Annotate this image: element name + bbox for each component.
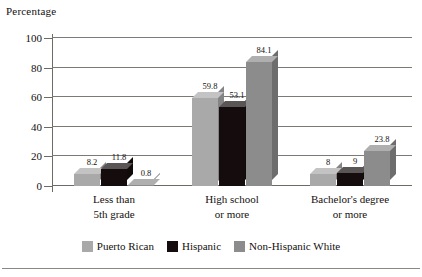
bottom-divider xyxy=(2,268,420,269)
legend-item[interactable]: Non-Hispanic White xyxy=(234,240,340,252)
y-tick-40 xyxy=(44,127,53,128)
bar-side-face xyxy=(127,157,133,180)
bar-group xyxy=(192,38,272,186)
legend-swatch-icon xyxy=(82,241,93,252)
bar-front-face xyxy=(128,185,154,186)
bar-front-face xyxy=(364,151,390,186)
bar[interactable] xyxy=(337,173,363,186)
bar-top-face xyxy=(192,92,224,98)
chart-legend: Puerto RicanHispanicNon-Hispanic White xyxy=(0,240,422,252)
y-axis-title: Percentage xyxy=(6,5,56,17)
y-tick-60 xyxy=(44,97,53,98)
category-label-line: or more xyxy=(205,207,258,222)
bar-group xyxy=(74,38,154,186)
y-tick-80 xyxy=(44,68,53,69)
bar-front-face xyxy=(310,174,336,186)
bar-side-face xyxy=(272,50,278,180)
y-axis-tick-labels: 020406080100 xyxy=(8,38,42,186)
legend-swatch-icon xyxy=(167,241,178,252)
legend-item[interactable]: Hispanic xyxy=(167,240,221,252)
bar-top-face xyxy=(128,179,160,185)
bar-front-face xyxy=(337,173,363,186)
bar[interactable] xyxy=(310,174,336,186)
y-tick-20 xyxy=(44,156,53,157)
bar-groups: 8.211.80.859.853.184.18923.8 xyxy=(52,38,412,186)
legend-label: Puerto Rican xyxy=(97,240,154,252)
bar[interactable] xyxy=(128,185,154,186)
bar-top-face xyxy=(101,163,133,169)
y-axis-label-100: 100 xyxy=(26,32,43,44)
y-axis-label-60: 60 xyxy=(31,91,42,103)
bar-front-face xyxy=(74,174,100,186)
legend-label: Hispanic xyxy=(182,240,221,252)
bar-top-face xyxy=(246,56,278,62)
category-label-line: or more xyxy=(311,207,389,222)
category-label-line: Bachelor's degree xyxy=(311,192,389,207)
bar[interactable] xyxy=(219,107,245,186)
legend-label: Non-Hispanic White xyxy=(249,240,340,252)
y-axis-label-40: 40 xyxy=(31,121,42,133)
category-label-line: 5th grade xyxy=(93,207,135,222)
bar-front-face xyxy=(101,169,127,186)
chart-figure: Percentage 020406080100 8.211.80.859.853… xyxy=(0,0,422,277)
category-label: High schoolor more xyxy=(205,192,258,222)
bar[interactable] xyxy=(192,98,218,187)
bar[interactable] xyxy=(101,169,127,186)
bar-front-face xyxy=(192,98,218,187)
category-label-line: Less than xyxy=(93,192,135,207)
y-tick-100 xyxy=(44,38,53,39)
bar-front-face xyxy=(219,107,245,186)
x-axis-category-labels: Less than5th gradeHigh schoolor moreBach… xyxy=(52,192,412,234)
y-axis-label-20: 20 xyxy=(31,150,42,162)
y-axis-label-80: 80 xyxy=(31,62,42,74)
category-label: Bachelor's degreeor more xyxy=(311,192,389,222)
y-tick-0 xyxy=(44,186,53,187)
legend-item[interactable]: Puerto Rican xyxy=(82,240,154,252)
bar-group xyxy=(310,38,390,186)
category-label: Less than5th grade xyxy=(93,192,135,222)
legend-swatch-icon xyxy=(234,241,245,252)
bar[interactable] xyxy=(246,62,272,186)
bar[interactable] xyxy=(74,174,100,186)
y-axis-label-0: 0 xyxy=(37,180,43,192)
bar[interactable] xyxy=(364,151,390,186)
bar-front-face xyxy=(246,62,272,186)
category-label-line: High school xyxy=(205,192,258,207)
